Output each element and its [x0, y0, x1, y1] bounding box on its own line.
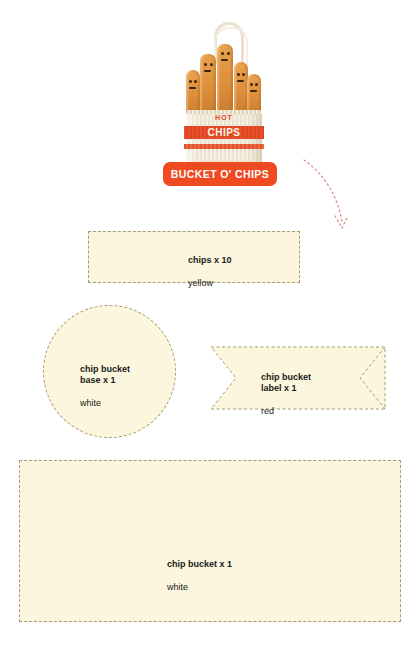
pattern-piece-bucket-body-caption: chip bucket x 1 white	[167, 547, 232, 605]
piece-title: chips x 10	[188, 255, 232, 267]
piece-title: chip bucket label x 1	[261, 372, 311, 395]
bucket-chips-text: CHIPS	[186, 127, 262, 138]
bucket-hot-text: HOT	[196, 114, 252, 121]
piece-color: white	[80, 398, 130, 410]
piece-title: chip bucket x 1	[167, 559, 232, 571]
knitted-bucket: HOT CHIPS	[186, 110, 262, 168]
product-photo: HOT CHIPS	[178, 22, 270, 162]
piece-color: white	[167, 582, 232, 594]
piece-color: yellow	[188, 278, 232, 290]
pattern-piece-bucket-label-caption: chip bucket label x 1 red	[261, 360, 311, 429]
pattern-page: HOT CHIPS BUCKET O' CHIPS chips x 10 yel…	[0, 0, 420, 672]
piece-color: red	[261, 406, 311, 418]
piece-title: chip bucket base x 1	[80, 364, 130, 387]
chip-figure	[200, 54, 216, 116]
product-title-badge: BUCKET O' CHIPS	[163, 162, 277, 186]
chip-figure	[234, 62, 248, 116]
curved-dotted-arrow-icon	[290, 148, 360, 238]
pattern-piece-bucket-base-caption: chip bucket base x 1 white	[80, 352, 130, 421]
product-title-label: BUCKET O' CHIPS	[171, 168, 269, 180]
bucket-red-band-lower	[184, 144, 264, 149]
pattern-piece-chips-caption: chips x 10 yellow	[188, 243, 232, 301]
chip-figure	[217, 44, 233, 116]
knitted-chips-group	[184, 38, 264, 116]
